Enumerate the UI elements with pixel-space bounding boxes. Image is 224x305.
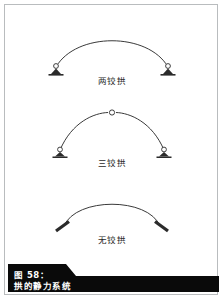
hinge-circle <box>54 64 59 69</box>
arch-curve-right <box>116 113 164 151</box>
caption-number: 图 58： <box>14 268 49 280</box>
arch-curve <box>64 204 160 226</box>
three-hinged-arch-svg <box>42 106 182 158</box>
fixed-end-bar <box>155 222 168 232</box>
figure-page: 两铰拱 三铰拱 <box>0 0 224 305</box>
fixed-support-left <box>56 222 69 232</box>
diagram-two-hinged-arch <box>0 26 224 76</box>
label-three-hinged-arch: 三铰拱 <box>0 156 224 168</box>
caption-title: 拱的静力系统 <box>14 279 71 291</box>
label-two-hinged-arch: 两铰拱 <box>0 74 224 86</box>
hingeless-arch-svg <box>42 188 182 234</box>
fixed-end-bar <box>56 222 69 232</box>
caption-banner: 图 58： 拱的静力系统 <box>0 264 224 294</box>
label-hingeless-arch: 无铰拱 <box>0 233 224 245</box>
crown-hinge-circle <box>109 110 114 115</box>
diagram-three-hinged-arch <box>0 106 224 158</box>
hinge-circle <box>162 147 167 152</box>
arch-curve-left <box>60 113 108 151</box>
diagram-hingeless-arch <box>0 188 224 234</box>
two-hinged-arch-svg <box>42 26 182 76</box>
arch-curve <box>56 41 168 67</box>
fixed-support-right <box>155 222 168 232</box>
hinge-circle <box>166 64 171 69</box>
hinge-circle <box>58 147 63 152</box>
